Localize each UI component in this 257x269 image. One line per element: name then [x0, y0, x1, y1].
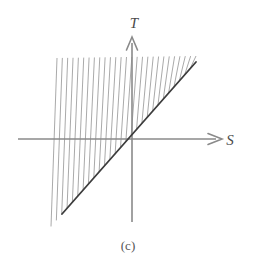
hatch-line — [121, 57, 127, 148]
hatch-line — [88, 57, 94, 184]
hatch-line — [62, 58, 68, 215]
figure-container: T S (c) — [0, 0, 257, 269]
hatch-line — [104, 57, 110, 166]
s-axis-label: S — [226, 132, 234, 148]
figure-plot: T S (c) — [0, 0, 257, 269]
hatch-line — [153, 57, 159, 112]
hatch-line — [110, 57, 116, 160]
hatch-line — [72, 58, 78, 203]
figure-caption: (c) — [121, 238, 135, 253]
hatch-line — [126, 57, 132, 142]
hatch-line — [137, 57, 143, 130]
hatch-line — [99, 57, 105, 172]
hatch-line — [142, 57, 148, 124]
hatch-line — [94, 57, 100, 178]
t-axis-label: T — [130, 15, 140, 31]
hatch-line — [51, 58, 57, 226]
hatch-line — [78, 58, 84, 197]
boundary-line-t-equals-s — [62, 62, 196, 214]
hatch-line — [83, 58, 89, 191]
hatch-line — [147, 57, 153, 118]
hatch-line — [67, 58, 73, 209]
